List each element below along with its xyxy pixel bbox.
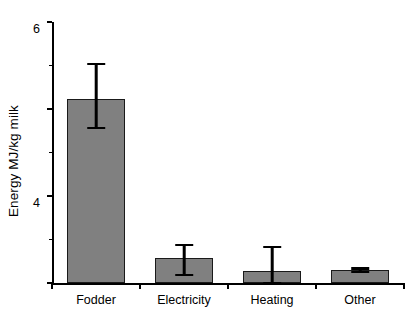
x-tick [315,283,317,289]
error-bar-stem [183,245,186,275]
y-axis-line [52,22,54,283]
x-tick [139,283,141,289]
y-tick-major: 2 [47,195,52,197]
error-bar-cap-lower [263,282,281,285]
x-tick-label: Electricity [157,293,210,307]
error-bar-cap-upper [175,244,193,247]
y-tick-major: 6 [47,21,52,23]
error-bar-cap-lower [87,127,105,130]
y-tick-major: 4 [47,108,52,110]
error-bar-stem [95,64,98,128]
x-tick-label: Other [344,293,375,307]
error-bar-cap-upper [87,63,105,66]
x-tick-label: Heating [250,293,293,307]
error-bar-stem [271,247,274,283]
y-tick-minor [49,239,53,240]
x-tick [51,283,53,289]
x-tick [227,283,229,289]
y-axis-title: Energy MJ/kg milk [0,0,26,322]
plot-area: 0246 FodderElectricityHeatingOther [52,14,404,284]
bar-chart-figure: Energy MJ/kg milk 0246 FodderElectricity… [0,0,418,322]
error-bar-cap-upper [351,267,369,270]
y-tick-label: 6 [33,22,40,36]
x-tick [403,283,405,289]
y-tick-minor [49,152,53,153]
error-bar-cap-lower [351,271,369,274]
y-tick-minor [49,65,53,66]
x-tick-label: Fodder [76,293,116,307]
error-bar-cap-upper [263,246,281,249]
error-bar-cap-lower [175,274,193,277]
y-tick-label: 4 [33,196,40,210]
